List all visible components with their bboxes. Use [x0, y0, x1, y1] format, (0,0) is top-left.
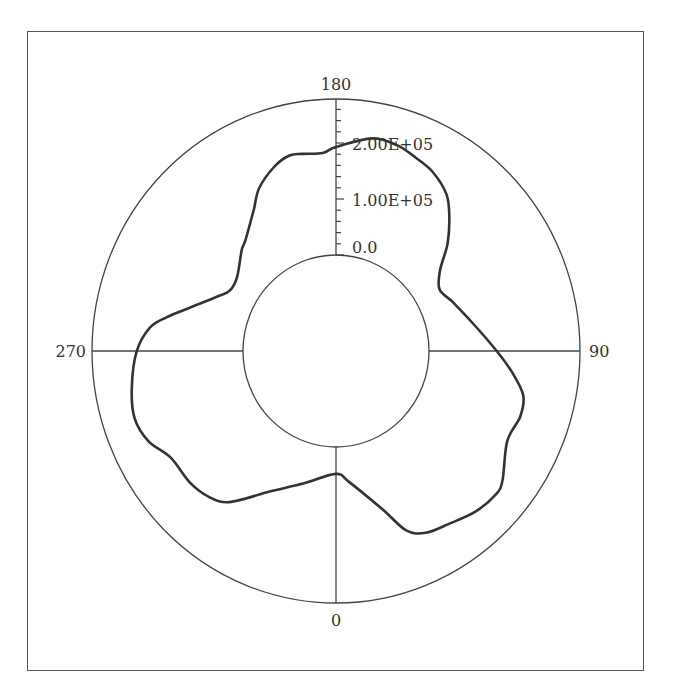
angle-label-180: 180	[321, 75, 352, 94]
polar-grid	[92, 99, 580, 603]
radial-tick-label-1e5: 1.00E+05	[352, 191, 433, 210]
angle-label-0: 0	[331, 611, 341, 630]
angle-label-90: 90	[589, 342, 609, 361]
polar-chart: 180 0 270 90 2.00E+05 1.00E+05 0.0	[0, 0, 675, 695]
angle-label-270: 270	[55, 342, 86, 361]
inner-circle	[243, 255, 429, 447]
data-curve	[132, 138, 524, 533]
radial-tick-label-0: 0.0	[352, 238, 377, 257]
radial-tick-label-2e5: 2.00E+05	[352, 135, 433, 154]
radial-ticks	[336, 109, 344, 255]
